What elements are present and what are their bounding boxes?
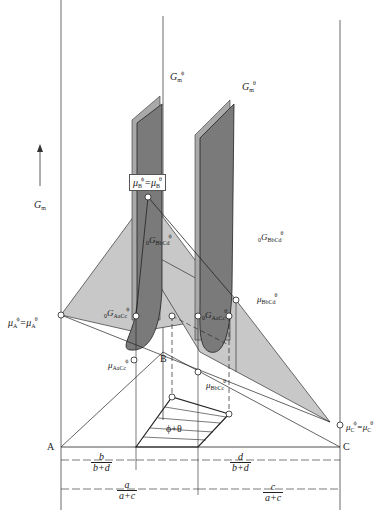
label-g-phi-curve: Gmϕ [170, 70, 184, 83]
sub: C [351, 427, 355, 433]
sub: C [367, 427, 371, 433]
label-mu-a: μAϕ=μAθ [8, 316, 38, 329]
sup: ϕ [169, 233, 172, 239]
label-mu-c: μCϕ=μCθ [346, 420, 373, 433]
label-mu-phi-aacc: μAaCcϕ [108, 358, 128, 371]
corner-label-a: A [47, 442, 54, 452]
sub: BbCc [211, 385, 225, 391]
sub: B [138, 183, 142, 189]
point-mu-theta-bbcc [195, 369, 201, 375]
sup: θ [275, 292, 278, 298]
point-g-phi-aacc [133, 313, 139, 319]
point-region-a [169, 394, 175, 400]
sup: ϕ [125, 358, 128, 364]
axis-label-sub: m [41, 205, 46, 211]
point-tangent-phi [169, 313, 175, 319]
label-mu-theta-bbcc: μBbCcθ [206, 378, 226, 391]
point-region-b [226, 411, 232, 417]
denominator: b+d [91, 462, 112, 473]
eq: =μ [144, 177, 156, 188]
denominator: a+c [263, 492, 283, 503]
sup: θ [281, 230, 284, 236]
point-mu-b [145, 194, 151, 200]
sub: AaCc [212, 315, 226, 321]
denominator: a+c [117, 490, 137, 501]
sup: θ [370, 420, 373, 426]
label-g-phi-aacc: 0GAaCcϕ [104, 306, 129, 319]
eq: =μ [357, 422, 368, 432]
label-g-theta-aacc: 0GAaCcθ [202, 308, 227, 321]
point-mu-c [337, 422, 343, 428]
dim-label-b: bb+d [91, 452, 112, 473]
sup: ϕ [126, 306, 129, 312]
sub: AaCc [113, 365, 127, 371]
label-g-phi-bbcd: 0GBbCdϕ [146, 233, 172, 246]
sub: BbCd [268, 237, 282, 243]
sub: AaCc [114, 313, 128, 319]
numerator: c [269, 482, 277, 492]
label-mu-theta-bbcd: μBbCdθ [257, 292, 277, 305]
sub: BbCd [156, 240, 170, 246]
arrow-head-icon [37, 144, 43, 152]
diagram-canvas [0, 0, 386, 514]
sup: θ [253, 80, 256, 86]
numerator: a [123, 480, 132, 490]
corner-label-c: C [343, 442, 350, 452]
sup: ϕ [181, 70, 184, 76]
dim-label-d: db+d [230, 452, 251, 473]
numerator: b [97, 452, 106, 462]
denominator: b+d [230, 462, 251, 473]
dim-label-a: aa+c [117, 480, 137, 501]
tie-line [165, 407, 226, 417]
sub: A [13, 323, 17, 329]
label-mu-b: μBϕ=μBθ [129, 174, 166, 191]
two-phase-region-label: ϕ+θ [166, 424, 182, 434]
sub: m [177, 77, 182, 83]
sup: θ [223, 378, 226, 384]
sup: θ [159, 176, 162, 182]
point-mu-phi-aacc [131, 357, 137, 363]
sub: BbCd [262, 299, 276, 305]
two-phase-region [136, 397, 229, 447]
point-mu-theta-bbcd [233, 297, 239, 303]
point-g-theta-aacc [195, 313, 201, 319]
sub: A [31, 323, 35, 329]
sup: θ [224, 308, 227, 314]
numerator: d [236, 452, 245, 462]
dim-label-c: ca+c [263, 482, 283, 503]
point-mu-a [58, 312, 64, 318]
corner-label-b: B [160, 354, 167, 364]
sub: m [249, 87, 254, 93]
gm-axis-label: Gm [34, 200, 46, 211]
sup: θ [35, 316, 38, 322]
tie-line [143, 437, 206, 440]
eq: =μ [20, 317, 32, 328]
label-g-theta-bbcd: 0GBbCdθ [258, 230, 283, 243]
label-g-theta-curve: Gmθ [242, 80, 256, 93]
sub: B [156, 183, 160, 189]
